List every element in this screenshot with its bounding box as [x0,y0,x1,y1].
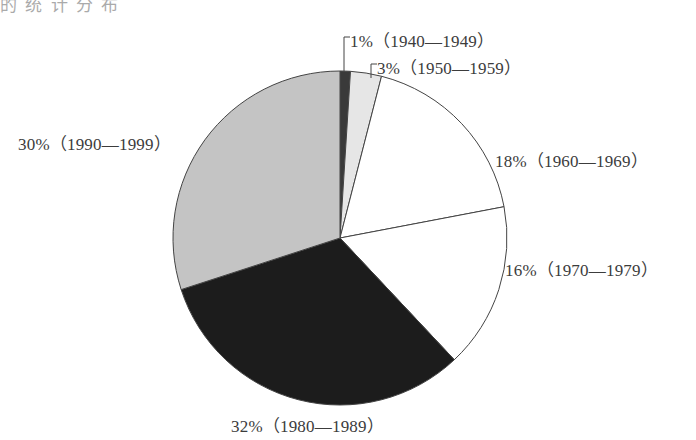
slice-label-1950s: 3%（1950—1959） [377,54,521,79]
slice-label-1960s: 18%（1960—1969） [495,147,648,172]
slice-label-1970s: 16%（1970—1979） [505,256,658,281]
slice-label-1990s: 30%（1990—1999） [18,130,171,155]
pie-chart [0,0,696,440]
pie-slices [173,71,507,405]
slice-label-1940s: 1%（1940—1949） [350,27,494,52]
slice-label-1980s: 32%（1980—1989） [231,412,384,437]
